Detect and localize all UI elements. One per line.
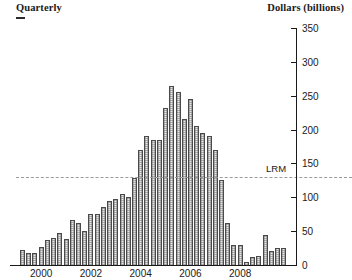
y-axis-tick bbox=[291, 96, 297, 97]
plot-area bbox=[16, 28, 296, 265]
y-axis-tick bbox=[291, 231, 297, 232]
y-axis-line bbox=[296, 28, 297, 265]
bar bbox=[107, 201, 112, 265]
bar bbox=[281, 248, 286, 265]
y-axis-tick-label: 0 bbox=[302, 260, 308, 271]
bar-series bbox=[16, 28, 296, 265]
y-axis-tick-label: 300 bbox=[302, 56, 319, 67]
y-axis-tick bbox=[291, 28, 297, 29]
bar bbox=[213, 150, 218, 265]
bar bbox=[120, 194, 125, 265]
y-axis-tick-label: 350 bbox=[302, 23, 319, 34]
bar bbox=[132, 178, 137, 265]
bar bbox=[45, 240, 50, 265]
bar bbox=[20, 250, 25, 265]
x-axis-tick-label: 2006 bbox=[179, 268, 201, 279]
bar bbox=[194, 126, 199, 265]
bar bbox=[200, 133, 205, 265]
y-axis-tick-label: 250 bbox=[302, 90, 319, 101]
bar bbox=[250, 257, 255, 265]
bar bbox=[176, 92, 181, 265]
y-axis-tick-label: 50 bbox=[302, 226, 313, 237]
chart-left-header: Quarterly bbox=[16, 2, 62, 13]
y-axis-tick bbox=[291, 197, 297, 198]
x-axis-tick-label: 2008 bbox=[229, 268, 251, 279]
x-axis-line bbox=[10, 265, 297, 266]
bar bbox=[39, 247, 44, 265]
bar bbox=[26, 253, 31, 265]
bar bbox=[169, 86, 174, 265]
bar bbox=[219, 180, 224, 265]
bar bbox=[95, 214, 100, 265]
bar bbox=[207, 136, 212, 265]
x-axis-tick-label: 2000 bbox=[30, 268, 52, 279]
y-axis-tick bbox=[291, 163, 297, 164]
series-marker-dash bbox=[16, 17, 25, 19]
bar bbox=[225, 223, 230, 265]
x-axis-tick-label: 2002 bbox=[80, 268, 102, 279]
bar bbox=[57, 233, 62, 266]
bar bbox=[188, 99, 193, 265]
bar bbox=[126, 197, 131, 265]
bar bbox=[256, 256, 261, 265]
bar bbox=[101, 207, 106, 265]
bar bbox=[231, 245, 236, 265]
bar bbox=[151, 140, 156, 265]
lrm-reference-line bbox=[16, 177, 352, 178]
bar bbox=[238, 245, 243, 265]
bar bbox=[82, 231, 87, 265]
bar bbox=[32, 253, 37, 265]
bar bbox=[51, 238, 56, 265]
bar bbox=[163, 108, 168, 265]
chart-right-header: Dollars (billions) bbox=[267, 2, 344, 13]
bar bbox=[64, 239, 69, 265]
bar bbox=[88, 214, 93, 265]
bar bbox=[70, 220, 75, 265]
bar bbox=[113, 199, 118, 265]
bar bbox=[138, 150, 143, 265]
bar bbox=[157, 140, 162, 265]
bar bbox=[144, 136, 149, 265]
bar bbox=[275, 248, 280, 265]
y-axis-tick bbox=[291, 265, 297, 266]
y-axis-tick-label: 200 bbox=[302, 124, 319, 135]
bar bbox=[263, 235, 268, 265]
chart-figure: Quarterly Dollars (billions) LRM 0501001… bbox=[0, 0, 352, 280]
x-axis-tick-label: 2004 bbox=[130, 268, 152, 279]
y-axis-tick bbox=[291, 130, 297, 131]
lrm-reference-label: LRM bbox=[266, 163, 286, 174]
y-axis-tick-label: 100 bbox=[302, 192, 319, 203]
bar bbox=[182, 119, 187, 265]
bar bbox=[269, 251, 274, 265]
y-axis-tick bbox=[291, 62, 297, 63]
bar bbox=[76, 223, 81, 265]
y-axis-tick-label: 150 bbox=[302, 158, 319, 169]
